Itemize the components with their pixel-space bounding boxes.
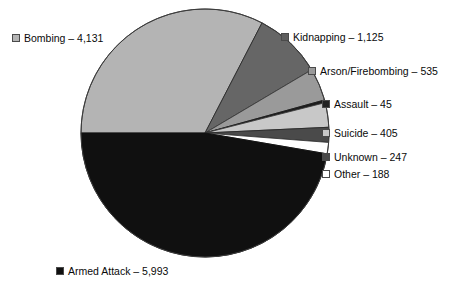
swatch-other — [322, 170, 330, 178]
slice-label-kidnapping-text: Kidnapping – 1,125 — [293, 32, 384, 43]
slice-label-bombing: Bombing – 4,131 — [12, 33, 103, 44]
slice-label-suicide-text: Suicide – 405 — [334, 128, 398, 139]
slice-label-assault-text: Assault – 45 — [334, 99, 392, 110]
swatch-kidnapping — [281, 33, 289, 41]
slice-label-armed-attack-text: Armed Attack – 5,993 — [68, 266, 168, 277]
swatch-unknown — [322, 153, 330, 161]
slice-label-other: Other – 188 — [322, 169, 389, 180]
slice-label-unknown-text: Unknown – 247 — [334, 152, 407, 163]
slice-label-kidnapping: Kidnapping – 1,125 — [281, 32, 384, 43]
slice-label-armed-attack: Armed Attack – 5,993 — [56, 266, 168, 277]
slice-label-other-text: Other – 188 — [334, 169, 389, 180]
pie-chart-figure: Bombing – 4,131 Kidnapping – 1,125 Arson… — [0, 0, 458, 291]
slice-label-arson-firebombing: Arson/Firebombing – 535 — [308, 66, 438, 77]
swatch-armed-attack — [56, 267, 64, 275]
slice-label-bombing-text: Bombing – 4,131 — [24, 33, 103, 44]
swatch-bombing — [12, 34, 20, 42]
slice-label-unknown: Unknown – 247 — [322, 152, 407, 163]
slice-label-suicide: Suicide – 405 — [322, 128, 398, 139]
pie-slices-group — [81, 9, 329, 257]
swatch-arson-firebombing — [308, 67, 316, 75]
slice-label-assault: Assault – 45 — [322, 99, 392, 110]
pie-slice-armed-attack — [81, 133, 327, 257]
swatch-suicide — [322, 129, 330, 137]
slice-label-arson-firebombing-text: Arson/Firebombing – 535 — [320, 66, 438, 77]
swatch-assault — [322, 100, 330, 108]
